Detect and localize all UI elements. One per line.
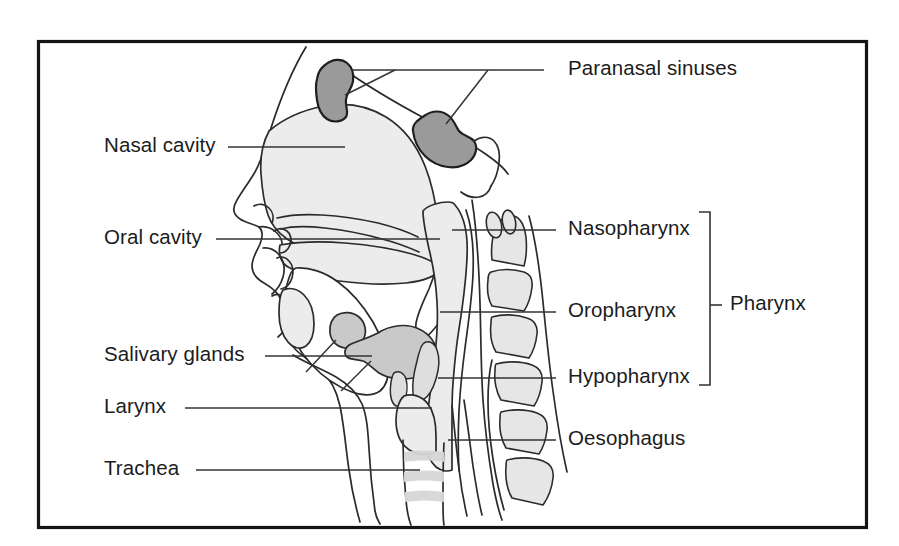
skull-base-posterior-2 — [461, 186, 491, 197]
label-paranasal-sinuses: Paranasal sinuses — [568, 58, 737, 79]
anatomy-group — [234, 47, 567, 525]
label-salivary-glands: Salivary glands — [104, 344, 245, 365]
label-nasal-cavity: Nasal cavity — [104, 135, 216, 156]
vertebra-c7 — [506, 458, 553, 505]
label-larynx: Larynx — [104, 396, 166, 417]
trachea-ring-1 — [404, 451, 444, 463]
vertebra-c5 — [495, 362, 542, 406]
vertebra-c4 — [491, 315, 538, 358]
frontal-sinus — [316, 60, 353, 122]
vertebra-c1-anterior — [484, 211, 504, 240]
label-hypopharynx: Hypopharynx — [568, 366, 690, 387]
vertebra-c6 — [500, 410, 547, 454]
oesophagus-posterior-line — [464, 400, 482, 515]
vertebra-c3 — [488, 270, 533, 311]
figure-root: Nasal cavity Oral cavity Salivary glands… — [0, 0, 899, 546]
label-oesophagus: Oesophagus — [568, 428, 685, 449]
leader-sinus-branch-2 — [446, 70, 488, 124]
trachea-ring-3 — [405, 491, 444, 503]
trachea-ring-2 — [404, 471, 444, 483]
pharynx-bracket — [699, 212, 722, 385]
oesophagus-anterior-line — [452, 405, 467, 516]
label-oral-cavity: Oral cavity — [104, 227, 202, 248]
label-oropharynx: Oropharynx — [568, 300, 676, 321]
label-pharynx-group: Pharynx — [730, 293, 806, 314]
label-nasopharynx: Nasopharynx — [568, 218, 690, 239]
pharynx-bracket-path — [699, 212, 710, 385]
label-trachea: Trachea — [104, 458, 179, 479]
